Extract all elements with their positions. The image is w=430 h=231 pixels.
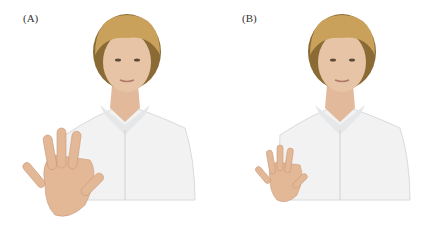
panel-b: (B) [215,0,430,231]
face [318,32,366,92]
woman-figure [0,0,215,231]
woman-figure [215,0,430,231]
face [103,32,151,92]
panel-a: (A) [0,0,215,231]
